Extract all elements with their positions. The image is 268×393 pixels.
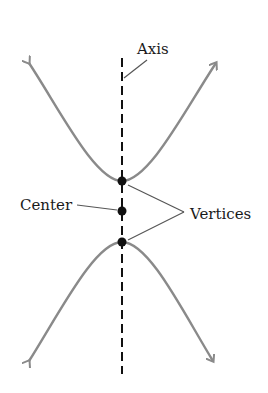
center-label: Center [20,196,73,214]
upper-vertex-point [118,177,127,186]
axis-label: Axis [136,40,169,58]
vertices-leader-lower [128,212,184,240]
hyperbola-diagram: Axis Center Vertices [0,0,268,393]
center-leader-line [77,205,117,210]
vertices-label: Vertices [189,205,251,223]
vertices-leader-upper [128,185,184,212]
axis-leader-line [124,60,147,78]
center-point [118,207,127,216]
lower-vertex-point [118,238,127,247]
